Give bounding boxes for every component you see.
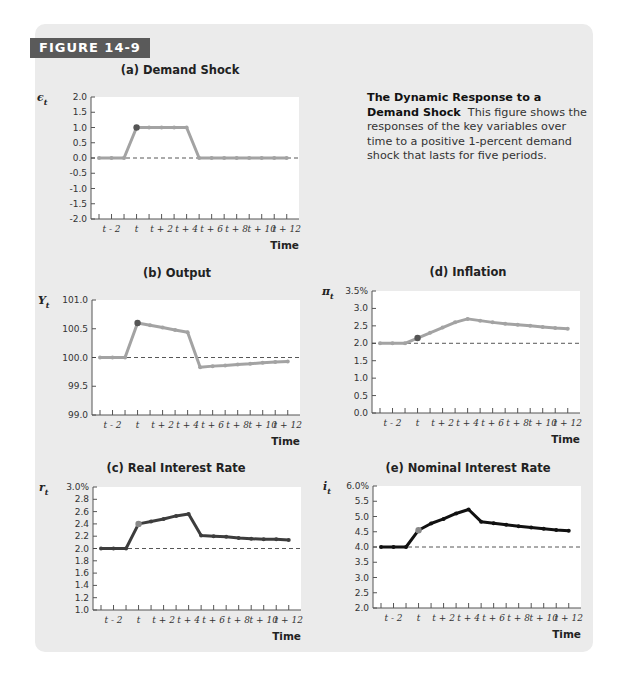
chart-c: (c) Real Interest Rate3.0%2.82.62.42.22.… [39,461,303,642]
x-tick-label: t [136,420,140,430]
data-point [504,523,508,527]
y-tick-label: 1.5 [73,107,87,117]
data-point [147,126,151,130]
y-tick-label: 99.0 [68,410,88,420]
x-tick-label: t + 12 [275,615,304,625]
data-point [99,547,103,551]
data-point [378,341,382,345]
y-tick-label: 5.5 [355,496,369,506]
x-tick-label: t + 8 [507,613,530,623]
x-tick-label: t + 6 [482,613,505,623]
x-tick-label: t + 2 [151,420,174,430]
x-tick-label: t + 2 [152,615,175,625]
data-point [124,547,128,551]
y-tick-label: 99.5 [68,381,88,391]
x-tick-label: t + 2 [431,418,454,428]
data-point [516,323,520,327]
chart-title: (b) Output [143,266,212,280]
y-tick-label: 2.0 [73,92,88,102]
data-point [542,527,546,531]
data-point [492,521,496,525]
data-point [210,156,214,160]
data-point [404,545,408,549]
y-tick-label: 3.5 [355,557,369,567]
plot-area [372,291,580,413]
data-point [199,534,203,538]
y-tick-label: 1.0 [73,123,88,133]
data-point [161,326,165,330]
data-point [97,156,101,160]
y-tick-label: 2.8 [75,494,90,504]
x-tick-label: t [135,224,139,234]
chart-title: (c) Real Interest Rate [106,461,245,475]
data-point [173,328,177,332]
chart-title: (a) Demand Shock [121,63,240,77]
data-point [442,517,446,521]
data-point [274,537,278,541]
y-axis-label: ϵt [37,91,48,107]
data-point [111,356,115,360]
y-tick-label: 3.0% [66,482,89,492]
x-tick-label: t + 4 [177,615,200,625]
chart-d: (d) Inflation3.5%3.02.52.01.51.00.50.0πt… [321,265,582,445]
y-tick-label: 0.0 [354,408,369,418]
data-point [391,341,395,345]
x-tick-label: t + 4 [456,418,479,428]
data-point [186,330,190,334]
data-point [235,156,239,160]
chart-e: (e) Nominal Interest Rate6.0%5.55.04.54.… [323,461,583,640]
data-point [272,156,276,160]
y-tick-label: 2.6 [75,507,90,517]
data-point [248,362,252,366]
data-point [212,534,216,538]
data-point [467,507,471,511]
chart-b: (b) Output101.0100.5100.099.599.0Ytt - 2… [38,266,302,447]
y-tick-label: 1.8 [75,556,90,566]
data-point [162,517,166,521]
y-tick-label: 3.5% [345,286,368,296]
x-tick-label: t + 12 [555,613,584,623]
x-tick-label: t + 4 [176,420,199,430]
data-point [553,326,557,330]
data-point [428,331,432,335]
chart-area: (a) Demand Shock2.01.51.00.50.0-0.5-1.0-… [0,0,625,678]
y-axis-label: it [323,480,331,496]
x-tick-label: t [137,615,141,625]
data-point [187,512,191,516]
chart-title: (d) Inflation [429,265,506,279]
x-axis-label: Time [270,239,299,251]
y-tick-label: 2.0 [75,544,90,554]
y-tick-label: 1.4 [75,580,90,590]
x-tick-label: t [417,613,421,623]
x-tick-label: t + 12 [273,224,302,234]
x-axis-label: Time [271,435,300,447]
data-point [285,156,289,160]
y-tick-label: 1.0 [354,373,369,383]
x-axis-label: Time [551,433,580,445]
y-tick-label: 2.4 [75,519,90,529]
x-tick-label: t + 8 [225,224,248,234]
y-axis-label: πt [321,285,334,301]
data-point [453,320,457,324]
y-tick-label: 1.2 [75,593,89,603]
data-point [98,356,102,360]
chart-title: (e) Nominal Interest Rate [385,461,550,475]
y-tick-label: 0.0 [73,153,88,163]
data-point [223,364,227,368]
y-tick-label: -2.0 [69,214,87,224]
data-point [237,536,241,540]
y-axis-label: Yt [38,294,50,310]
y-tick-label: 4.0 [355,542,370,552]
y-tick-label: -0.5 [69,168,87,178]
y-tick-label: 0.5 [73,138,87,148]
y-tick-label: 4.5 [355,527,369,537]
x-tick-label: t - 2 [104,615,122,625]
data-point [185,126,189,130]
data-point [236,362,240,366]
data-point [174,514,178,518]
y-tick-label: 1.6 [75,568,90,578]
data-point [149,519,153,523]
x-tick-label: t + 12 [554,418,583,428]
data-point [466,317,470,321]
y-tick-label: 5.0 [355,512,370,522]
